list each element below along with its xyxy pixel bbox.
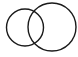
right-circle	[28, 3, 76, 51]
left-circle	[7, 9, 44, 46]
venn-diagram	[0, 0, 78, 57]
